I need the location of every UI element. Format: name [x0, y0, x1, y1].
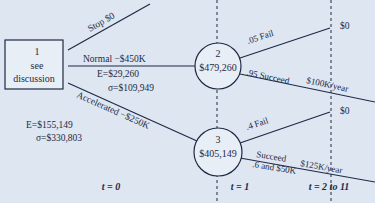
accelerated-expected-value: E=$155,149	[26, 120, 73, 130]
node3-succeed-sublabel: .6 and $50K	[252, 159, 298, 176]
node3-fail-payoff: $0	[340, 106, 350, 116]
node2-succeed-payoff: $100K/year	[306, 75, 350, 94]
node3-value: $405,149	[199, 148, 237, 159]
node2-fail-label: .05 Fail	[246, 28, 276, 46]
node2-fail-payoff: $0	[340, 21, 350, 31]
accelerated-label: Accelerated −$250K	[75, 90, 151, 131]
node2-succeed-label: .95 Succeed	[246, 67, 291, 86]
node3-fail-label: .4 Fail	[245, 115, 270, 132]
normal-expected-value: E=$29,260	[97, 69, 139, 79]
time-label-t0: t = 0	[102, 181, 120, 192]
decision-node-number: 1	[35, 46, 40, 57]
accelerated-sigma: σ=$330,803	[36, 133, 82, 143]
node2-number: 2	[216, 48, 221, 59]
node3-number: 3	[216, 134, 221, 145]
node2-value: $479,260	[199, 62, 237, 73]
decision-node-line1: see	[31, 60, 44, 71]
time-label-t2-11: t = 2 to 11	[309, 181, 350, 192]
stop-label: Stop $0	[86, 10, 117, 33]
decision-node-line2: discussion	[13, 73, 55, 84]
normal-label: Normal −$450K	[83, 54, 146, 64]
decision-tree: 1 see discussion Stop $0 Normal −$450K E…	[0, 0, 375, 203]
normal-sigma: σ=$109,949	[108, 83, 154, 93]
time-label-t1: t = 1	[231, 181, 249, 192]
